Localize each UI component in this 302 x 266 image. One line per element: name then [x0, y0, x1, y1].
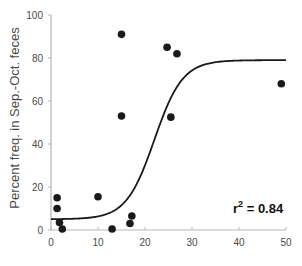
data-point [163, 43, 171, 51]
x-tick-label: 0 [48, 237, 54, 248]
y-tick-label: 0 [37, 225, 43, 236]
x-axis: 01020304050 [48, 227, 292, 248]
y-tick-label: 100 [26, 10, 43, 21]
data-point [173, 50, 181, 58]
x-tick-label: 20 [139, 237, 151, 248]
data-point [167, 113, 175, 121]
data-point [118, 112, 126, 120]
data-point [118, 31, 126, 39]
y-tick-label: 20 [32, 182, 44, 193]
y-tick-label: 60 [32, 96, 44, 107]
scatter-chart: 020406080100 01020304050 Percent freq. i… [0, 0, 302, 266]
data-point [278, 80, 286, 88]
data-point [53, 205, 61, 213]
x-tick-label: 50 [280, 237, 292, 248]
y-tick-label: 40 [32, 139, 44, 150]
logistic-fit-line [51, 60, 286, 219]
x-tick-label: 30 [186, 237, 198, 248]
y-axis: 020406080100 [26, 10, 51, 236]
x-tick-label: 40 [233, 237, 245, 248]
data-point [58, 225, 66, 233]
data-point [128, 212, 136, 220]
y-tick-label: 80 [32, 53, 44, 64]
r-value: = 0.84 [243, 201, 284, 216]
data-point [94, 193, 102, 201]
y-axis-label: Percent freq. in Sep.-Oct. feces [7, 27, 22, 209]
x-tick-label: 10 [92, 237, 104, 248]
data-point [53, 194, 61, 202]
data-point [126, 220, 134, 228]
r-squared-annotation: r2 = 0.84 [233, 199, 284, 216]
data-point [108, 225, 116, 233]
fit-curve [51, 60, 286, 219]
